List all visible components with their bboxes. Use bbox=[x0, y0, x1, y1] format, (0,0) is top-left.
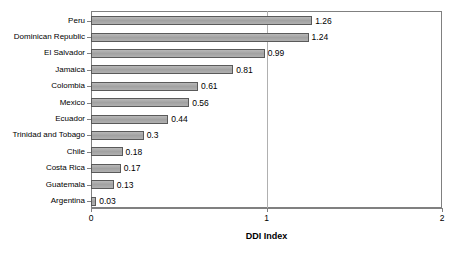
bar-value-label: 0.44 bbox=[171, 111, 188, 127]
bar bbox=[91, 16, 312, 25]
bar-row: Mexico0.56 bbox=[0, 95, 458, 111]
bar bbox=[91, 65, 233, 74]
x-axis-tick-mark bbox=[442, 208, 443, 212]
category-label: Argentina bbox=[0, 193, 85, 209]
x-axis-tick-label: 1 bbox=[252, 213, 282, 223]
bar bbox=[91, 115, 168, 124]
bar-value-label: 0.56 bbox=[192, 95, 209, 111]
category-label: Peru bbox=[0, 13, 85, 29]
bar-row: Dominican Republic1.24 bbox=[0, 29, 458, 45]
bar bbox=[91, 131, 144, 140]
bar-row: Ecuador0.44 bbox=[0, 111, 458, 127]
x-axis-title: DDI Index bbox=[91, 231, 442, 241]
category-label: Colombia bbox=[0, 78, 85, 94]
bar bbox=[91, 164, 121, 173]
bar-value-label: 0.99 bbox=[268, 45, 285, 61]
x-axis-tick-mark bbox=[267, 208, 268, 212]
bar bbox=[91, 49, 265, 58]
category-label: El Salvador bbox=[0, 45, 85, 61]
category-label: Jamaica bbox=[0, 62, 85, 78]
x-axis-tick-label: 2 bbox=[427, 213, 457, 223]
category-label: Trinidad and Tobago bbox=[0, 127, 85, 143]
bar-row: Colombia0.61 bbox=[0, 78, 458, 94]
bar-row: Trinidad and Tobago0.3 bbox=[0, 127, 458, 143]
category-label: Costa Rica bbox=[0, 160, 85, 176]
bar bbox=[91, 98, 189, 107]
bar-row: El Salvador0.99 bbox=[0, 45, 458, 61]
bar-chart: Peru1.26Dominican Republic1.24El Salvado… bbox=[0, 0, 458, 257]
bar bbox=[91, 147, 123, 156]
bar-value-label: 0.17 bbox=[124, 160, 141, 176]
x-axis-tick-mark bbox=[91, 208, 92, 212]
bar-value-label: 1.26 bbox=[315, 13, 332, 29]
bar-row: Peru1.26 bbox=[0, 13, 458, 29]
category-label: Ecuador bbox=[0, 111, 85, 127]
bar-value-label: 1.24 bbox=[312, 29, 329, 45]
category-label: Guatemala bbox=[0, 177, 85, 193]
bar bbox=[91, 197, 96, 206]
bar bbox=[91, 180, 114, 189]
bar bbox=[91, 82, 198, 91]
bar-value-label: 0.18 bbox=[126, 144, 143, 160]
x-axis-tick-label: 0 bbox=[76, 213, 106, 223]
bar-value-label: 0.13 bbox=[117, 177, 134, 193]
bar-row: Guatemala0.13 bbox=[0, 177, 458, 193]
bar-value-label: 0.61 bbox=[201, 78, 218, 94]
bar bbox=[91, 33, 309, 42]
category-label: Mexico bbox=[0, 95, 85, 111]
bar-row: Jamaica0.81 bbox=[0, 62, 458, 78]
bar-value-label: 0.3 bbox=[147, 127, 159, 143]
category-label: Dominican Republic bbox=[0, 29, 85, 45]
bar-value-label: 0.03 bbox=[99, 193, 116, 209]
bar-value-label: 0.81 bbox=[236, 62, 253, 78]
bar-row: Costa Rica0.17 bbox=[0, 160, 458, 176]
bar-row: Argentina0.03 bbox=[0, 193, 458, 209]
bar-row: Chile0.18 bbox=[0, 144, 458, 160]
category-label: Chile bbox=[0, 144, 85, 160]
